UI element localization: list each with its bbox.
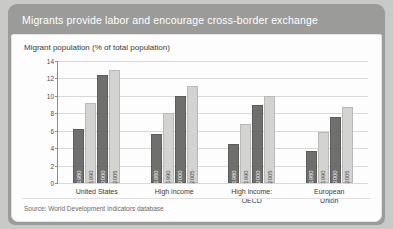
bar-year-label: 2000 [177, 170, 183, 183]
bar-year-label: 1990 [165, 170, 171, 183]
plot-area: 02468101214 1980199020002005198019902000… [58, 61, 368, 183]
bar-year-label: 2005 [267, 170, 273, 183]
bar: 1990 [318, 132, 329, 183]
bar-group: 1980199020002005 [58, 61, 136, 183]
bar: 2000 [175, 96, 186, 183]
bar: 1980 [228, 144, 239, 183]
y-axis-tick-label: 0 [50, 180, 54, 187]
bar: 1990 [163, 113, 174, 183]
bar: 1980 [306, 151, 317, 183]
bar-year-label: 1980 [76, 170, 82, 183]
bar: 2000 [97, 75, 108, 183]
bar-year-label: 2000 [100, 170, 106, 183]
y-axis-tick-label: 4 [50, 145, 54, 152]
category-label: High income [136, 187, 214, 205]
bar-year-label: 2005 [189, 170, 195, 183]
bar: 2005 [264, 96, 275, 183]
figure-container: Migrants provide labor and encourage cro… [8, 4, 385, 225]
bar-year-label: 2005 [112, 170, 118, 183]
bar: 1990 [85, 103, 96, 183]
bar-year-label: 1980 [231, 170, 237, 183]
y-axis-tick-mark [55, 183, 58, 184]
source-divider [22, 198, 371, 199]
category-label-line: United States [58, 187, 136, 196]
bar-group: 1980199020002005 [213, 61, 291, 183]
chart-axis-title: Migrant population (% of total populatio… [24, 43, 170, 52]
bar: 2005 [109, 70, 120, 183]
bar-year-label: 1980 [308, 170, 314, 183]
y-axis-tick-label: 14 [47, 58, 54, 65]
figure-title: Migrants provide labor and encourage cro… [8, 4, 385, 35]
bar: 1980 [73, 129, 84, 183]
bar-group: 1980199020002005 [291, 61, 369, 183]
bar-year-label: 1980 [153, 170, 159, 183]
category-label: United States [58, 187, 136, 205]
y-axis-tick-label: 6 [50, 127, 54, 134]
category-label-line: European [291, 187, 369, 196]
bar: 2000 [330, 117, 341, 183]
y-axis-tick-label: 10 [47, 92, 54, 99]
category-labels: United StatesHigh incomeHigh income:OECD… [58, 187, 368, 205]
y-axis-tick-label: 8 [50, 110, 54, 117]
bar: 2005 [342, 107, 353, 183]
bar: 2000 [252, 105, 263, 183]
category-label: High income:OECD [213, 187, 291, 205]
y-axis-tick-label: 12 [47, 75, 54, 82]
bar-year-label: 2000 [332, 170, 338, 183]
bar-year-label: 1990 [243, 170, 249, 183]
category-label-line: High income: [213, 187, 291, 196]
y-axis-tick-label: 2 [50, 162, 54, 169]
category-label-line: High income [136, 187, 214, 196]
category-label: EuropeanUnion [291, 187, 369, 205]
bar-year-label: 2000 [255, 170, 261, 183]
bar: 1980 [151, 134, 162, 183]
source-note: Source: World Development Indicators dat… [24, 205, 164, 212]
bar-year-label: 1990 [88, 170, 94, 183]
bar: 2005 [187, 86, 198, 183]
bar-year-label: 1990 [320, 170, 326, 183]
bar-year-label: 2005 [344, 170, 350, 183]
chart-panel: Migrant population (% of total populatio… [11, 34, 382, 222]
bar-groups: 1980199020002005198019902000200519801990… [58, 61, 368, 183]
bar: 1990 [240, 124, 251, 183]
bar-group: 1980199020002005 [136, 61, 214, 183]
